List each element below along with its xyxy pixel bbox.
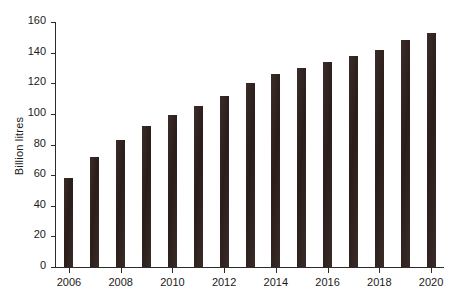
x-tick-label: 2016 <box>306 276 350 288</box>
x-tick-mark <box>379 268 380 273</box>
bar-2008 <box>116 140 125 267</box>
x-tick-mark <box>224 268 225 273</box>
x-tick-label: 2020 <box>409 276 449 288</box>
bar-2006 <box>64 178 73 267</box>
y-tick-label: 160 <box>28 14 46 26</box>
y-tick-label: 40 <box>34 198 46 210</box>
x-tick-mark <box>69 268 70 273</box>
x-tick-mark <box>172 268 173 273</box>
y-tick-label: 100 <box>28 106 46 118</box>
y-tick-label: 60 <box>34 167 46 179</box>
bar-2016 <box>323 62 332 267</box>
y-tick-label: 120 <box>28 75 46 87</box>
x-tick-mark <box>328 268 329 273</box>
x-tick-label: 2014 <box>254 276 298 288</box>
x-tick-label: 2010 <box>150 276 194 288</box>
bars-layer <box>56 22 444 267</box>
bar-2010 <box>168 115 177 267</box>
bar-2014 <box>271 74 280 267</box>
bar-2017 <box>349 56 358 267</box>
y-tick-label: 0 <box>40 259 46 271</box>
x-tick-mark <box>121 268 122 273</box>
bar-2020 <box>427 33 436 267</box>
bar-chart: Billion litres 020406080100120140160 200… <box>0 0 449 303</box>
y-tick-label: 80 <box>34 137 46 149</box>
y-tick-label: 140 <box>28 45 46 57</box>
y-axis-title: Billion litres <box>13 86 25 206</box>
x-tick-label: 2018 <box>357 276 401 288</box>
x-tick-label: 2006 <box>47 276 91 288</box>
bar-2015 <box>297 68 306 267</box>
x-tick-label: 2008 <box>99 276 143 288</box>
y-tick-mark <box>51 267 56 268</box>
bar-2012 <box>220 96 229 268</box>
x-tick-label: 2012 <box>202 276 246 288</box>
bar-2011 <box>194 106 203 267</box>
bar-2009 <box>142 126 151 267</box>
x-tick-mark <box>276 268 277 273</box>
y-tick-label: 20 <box>34 228 46 240</box>
bar-2013 <box>246 83 255 267</box>
x-tick-mark <box>431 268 432 273</box>
x-axis-line <box>55 267 444 268</box>
bar-2018 <box>375 50 384 267</box>
bar-2007 <box>90 157 99 267</box>
bar-2019 <box>401 40 410 267</box>
